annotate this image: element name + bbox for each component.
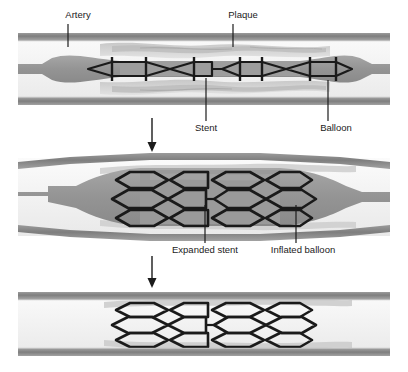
panel-3: [18, 292, 390, 356]
panel-1-intima-top: [18, 40, 390, 41]
label-stent: Stent: [195, 122, 218, 133]
panel-2: Expanded stent Inflated balloon: [18, 153, 390, 255]
label-plaque: Plaque: [228, 9, 258, 20]
panel-1: Artery Plaque Stent Balloon: [18, 9, 390, 133]
label-inflated-balloon: Inflated balloon: [271, 244, 335, 255]
label-expanded-stent: Expanded stent: [172, 244, 238, 255]
panel-1-intima-bottom: [18, 97, 390, 98]
label-balloon: Balloon: [320, 122, 352, 133]
panel-3-intima-top: [18, 299, 390, 300]
stent-procedure-diagram: Artery Plaque Stent Balloon: [0, 0, 408, 372]
panel-3-artery-wall-bottom: [18, 349, 390, 356]
label-artery: Artery: [65, 9, 91, 20]
panel-1-artery-wall-bottom: [18, 98, 390, 105]
panel-3-artery-wall-top: [18, 292, 390, 299]
figure-canvas: Artery Plaque Stent Balloon: [0, 0, 408, 372]
arrow-panel1-to-panel2: [148, 118, 157, 152]
arrow-panel2-to-panel3: [148, 256, 157, 288]
panel-3-intima-bottom: [18, 348, 390, 349]
panel-1-artery-wall-top: [18, 33, 390, 40]
